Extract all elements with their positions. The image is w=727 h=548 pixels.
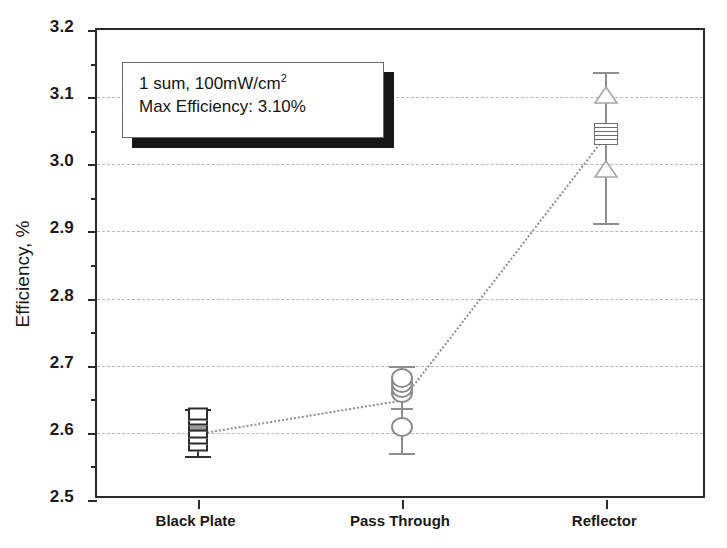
trend-line-segment <box>198 399 403 435</box>
annotation-superscript: 2 <box>281 72 287 84</box>
x-tick-label: Black Plate <box>156 512 236 529</box>
annotation-line-1-text: 1 sum, 100mW/cm <box>139 74 281 93</box>
y-tick-minor <box>91 399 97 401</box>
y-tick-label: 3.0 <box>30 151 74 171</box>
y-tick-label: 2.7 <box>30 353 74 373</box>
trend-line-segment <box>402 134 608 400</box>
data-point-marker <box>188 408 208 421</box>
y-tick-major <box>88 231 97 233</box>
y-tick-label: 2.5 <box>30 487 74 507</box>
error-bar-cap <box>389 366 415 368</box>
y-tick-label: 2.8 <box>30 286 74 306</box>
error-bar-cap <box>185 456 211 458</box>
y-tick-minor <box>91 265 97 267</box>
y-tick-label: 2.6 <box>30 420 74 440</box>
gridline <box>97 299 703 300</box>
y-tick-label: 3.1 <box>30 84 74 104</box>
y-tick-minor <box>91 466 97 468</box>
annotation-line-1: 1 sum, 100mW/cm2 <box>139 71 369 95</box>
y-tick-label: 3.2 <box>30 17 74 37</box>
data-point-marker <box>391 417 413 437</box>
data-point-marker <box>593 85 619 109</box>
data-point-marker <box>391 368 413 388</box>
y-tick-major <box>88 299 97 301</box>
data-point-marker <box>594 139 618 145</box>
annotation-box: 1 sum, 100mW/cm2 Max Efficiency: 3.10% <box>122 62 384 138</box>
y-tick-major <box>88 500 97 502</box>
y-tick-minor <box>91 332 97 334</box>
chart-canvas: Efficiency, % 2.52.62.72.82.93.03.13.2 B… <box>0 0 727 548</box>
x-tick-label: Reflector <box>572 512 637 529</box>
x-tick-label: Pass Through <box>350 512 450 529</box>
y-tick-minor <box>91 131 97 133</box>
annotation-line-2: Max Efficiency: 3.10% <box>139 95 369 118</box>
error-bar-cap <box>593 223 619 225</box>
y-tick-major <box>88 164 97 166</box>
error-bar-cap <box>389 453 415 455</box>
error-bar-cap <box>593 72 619 74</box>
y-tick-major <box>88 366 97 368</box>
y-tick-major <box>88 97 97 99</box>
x-tick <box>402 500 404 509</box>
y-tick-minor <box>91 198 97 200</box>
x-tick <box>198 500 200 509</box>
y-tick-major <box>88 433 97 435</box>
gridline <box>97 231 703 232</box>
data-point-marker <box>593 159 619 183</box>
y-tick-major <box>88 30 97 32</box>
x-tick <box>606 500 608 509</box>
error-bar-cap <box>391 408 413 410</box>
y-tick-label: 2.9 <box>30 218 74 238</box>
y-tick-minor <box>91 64 97 66</box>
y-axis-title: Efficiency, % <box>6 0 40 548</box>
